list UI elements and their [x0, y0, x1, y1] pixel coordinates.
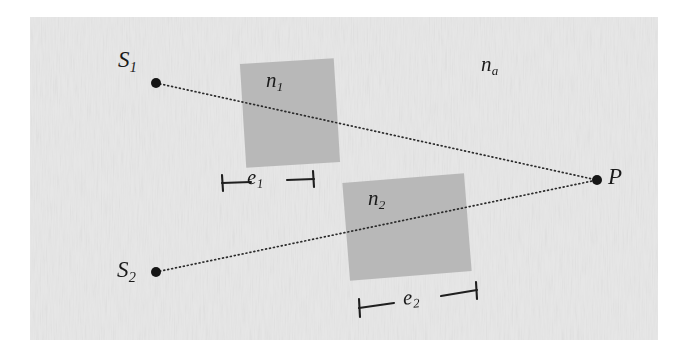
diagram-canvas [0, 0, 688, 363]
label-thickness-2-sub: 2 [412, 295, 420, 311]
label-source-2-base: S [117, 257, 129, 282]
label-index-2: n2 [368, 188, 385, 211]
label-index-1-sub: 1 [277, 79, 284, 94]
point-s2 [151, 267, 161, 277]
label-thickness-2: e2 [402, 286, 420, 310]
label-source-2-sub: 2 [129, 269, 136, 285]
label-index-1: n1 [266, 70, 283, 93]
label-thickness-2-base: e [402, 285, 413, 310]
optics-diagram-figure: S1 S2 P n1 n2 na e1 e2 [0, 0, 688, 363]
label-thickness-1-sub: 1 [256, 176, 263, 191]
label-point-p: P [608, 165, 622, 191]
label-source-1: S1 [118, 48, 137, 74]
label-thickness-1-base: e [246, 165, 256, 189]
point-p [592, 175, 602, 185]
label-thickness-1: e1 [247, 167, 264, 191]
label-source-1-base: S [118, 47, 130, 72]
slab-n2 [342, 173, 471, 280]
label-index-1-base: n [266, 68, 277, 92]
label-index-ambient: na [481, 54, 498, 77]
label-index-2-sub: 2 [379, 197, 386, 212]
label-source-2: S2 [117, 258, 136, 284]
label-source-1-sub: 1 [130, 59, 137, 75]
label-index-2-base: n [368, 186, 379, 210]
point-s1 [151, 78, 161, 88]
label-index-ambient-sub: a [492, 63, 499, 78]
label-index-ambient-base: n [481, 52, 492, 76]
label-point-p-base: P [608, 164, 622, 189]
